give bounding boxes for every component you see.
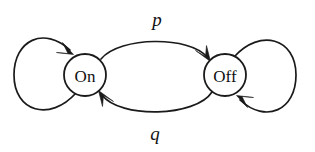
state-node-on-label: On (75, 67, 96, 86)
on-self-loop-arrowhead (57, 43, 74, 55)
edge-on-to-off[interactable]: p (101, 9, 211, 62)
off-self-loop-arrowhead (237, 96, 254, 108)
edge-off-to-on[interactable]: q (99, 91, 213, 144)
state-diagram-canvas: p q On Off (0, 0, 315, 152)
on-to-off-path (101, 41, 207, 59)
state-node-off-label: Off (213, 67, 237, 86)
state-node-on[interactable]: On (64, 54, 106, 96)
transition-label-q: q (150, 123, 160, 144)
state-transition-diagram: p q On Off (0, 0, 315, 152)
state-node-off[interactable]: Off (204, 54, 246, 96)
transition-label-p: p (150, 9, 162, 30)
off-to-on-path (102, 92, 212, 112)
